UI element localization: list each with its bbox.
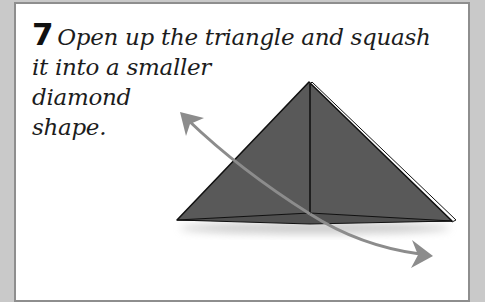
paper-triangle-icon xyxy=(177,82,452,221)
